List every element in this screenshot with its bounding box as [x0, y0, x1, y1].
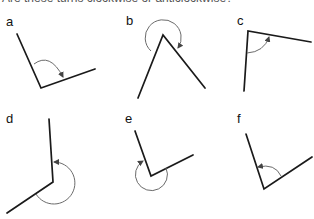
angle-rays-b	[138, 35, 205, 98]
turn-arrow-d	[36, 162, 75, 204]
panel-label-e: e	[125, 111, 132, 126]
panel-label-b: b	[126, 13, 133, 28]
turn-arrow-a	[34, 60, 63, 77]
panel-c: c	[237, 13, 311, 91]
panel-label-d: d	[6, 111, 13, 126]
panel-d: d	[6, 111, 75, 213]
angle-rays-c	[244, 31, 311, 91]
panel-f: f	[237, 111, 312, 189]
panel-b: b	[126, 13, 205, 98]
panel-label-c: c	[237, 13, 244, 28]
angle-rays-d	[7, 119, 53, 213]
turn-arrow-c	[247, 37, 269, 53]
angle-rays-a	[17, 34, 95, 88]
angle-turns-figure: a b c d e f	[0, 0, 314, 219]
panel-e: e	[125, 111, 193, 191]
turn-arrow-f	[258, 166, 281, 176]
angle-rays-f	[246, 134, 312, 189]
panel-label-a: a	[6, 14, 14, 29]
panel-label-f: f	[237, 111, 241, 126]
panel-a: a	[6, 14, 95, 88]
angle-rays-e	[135, 131, 193, 176]
